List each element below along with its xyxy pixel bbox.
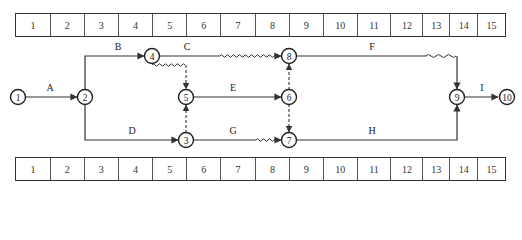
activity-label-a: A [46, 82, 54, 93]
activity-label-i: I [480, 82, 483, 93]
activity-label-h: H [368, 125, 375, 136]
time-unit-12: 12 [391, 158, 423, 180]
node-label: 2 [83, 93, 88, 103]
time-unit-5: 5 [153, 158, 187, 180]
node-label: 4 [150, 52, 155, 62]
time-unit-15: 15 [478, 158, 505, 180]
activity-label-c: C [184, 41, 191, 52]
time-unit-11: 11 [358, 158, 392, 180]
node-3: 3 [179, 133, 194, 148]
activity-label-b: B [115, 41, 122, 52]
activity-g-free-float-wave [256, 139, 280, 142]
time-unit-10: 10 [324, 158, 358, 180]
node-2: 2 [78, 90, 93, 105]
time-unit-4: 4 [119, 158, 154, 180]
activity-b-arrow [85, 56, 144, 90]
node-label: 3 [184, 136, 189, 146]
node-4: 4 [145, 49, 160, 64]
time-scale-bottom: 123456789101112131415 [15, 157, 506, 181]
time-unit-8: 8 [256, 158, 290, 180]
node-7: 7 [282, 133, 297, 148]
time-unit-13: 13 [423, 158, 450, 180]
time-unit-1: 1 [16, 158, 51, 180]
node-label: 5 [184, 93, 189, 103]
node-label: 10 [502, 93, 512, 103]
time-unit-6: 6 [187, 158, 221, 180]
activity-c-free-float-wave [220, 55, 280, 58]
node-label: 9 [455, 93, 460, 103]
time-unit-2: 2 [51, 158, 85, 180]
activity-label-g: G [229, 125, 236, 136]
node-6: 6 [282, 90, 297, 105]
node-10: 10 [500, 90, 515, 105]
activity-h-arrow [297, 105, 457, 140]
dummy-4-5-free-float-wave [152, 64, 185, 67]
node-9: 9 [450, 90, 465, 105]
activity-label-d: D [128, 125, 135, 136]
activity-f-free-float-wave [426, 55, 456, 58]
time-unit-3: 3 [85, 158, 119, 180]
node-label: 8 [287, 52, 292, 62]
node-1: 1 [11, 90, 26, 105]
node-label: 1 [16, 93, 21, 103]
activity-label-e: E [230, 82, 236, 93]
time-unit-7: 7 [221, 158, 256, 180]
time-unit-9: 9 [290, 158, 324, 180]
activity-label-f: F [369, 41, 375, 52]
node-label: 6 [287, 93, 292, 103]
node-5: 5 [179, 90, 194, 105]
node-label: 7 [287, 136, 292, 146]
node-8: 8 [282, 49, 297, 64]
time-unit-14: 14 [450, 158, 478, 180]
